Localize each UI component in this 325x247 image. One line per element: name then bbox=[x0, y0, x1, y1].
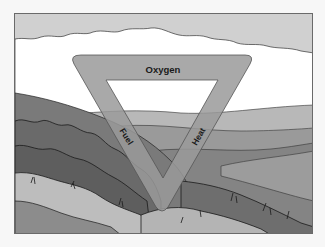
landscape-scene: Oxygen Fuel Heat bbox=[15, 14, 313, 234]
fire-triangle-illustration: Oxygen Fuel Heat bbox=[14, 13, 313, 234]
label-oxygen: Oxygen bbox=[146, 64, 181, 75]
